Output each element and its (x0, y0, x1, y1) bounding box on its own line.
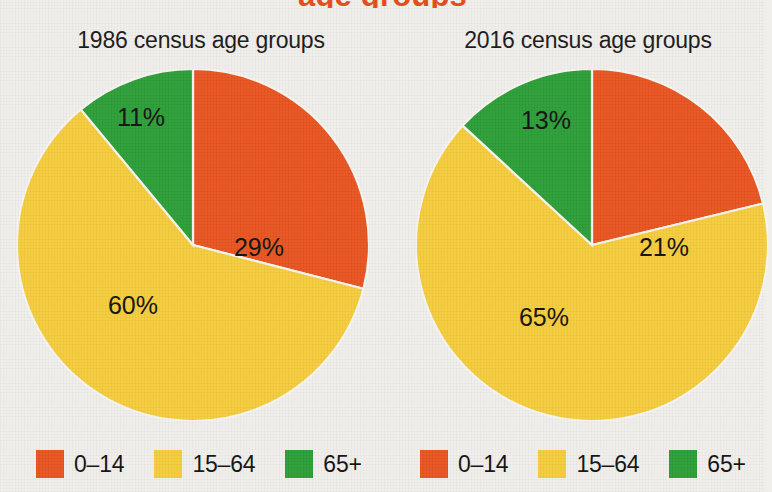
chart-title-1986: 1986 census age groups (0, 27, 392, 54)
pie-svg-2016: 21% 65% 13% (416, 69, 768, 421)
pie-chart-1986: 29% 60% 11% (17, 69, 369, 421)
legend-swatch-15-64-icon (154, 450, 182, 478)
legend-label-0-14: 0–14 (74, 451, 124, 478)
legend-item-15-64-2016[interactable]: 15–64 (538, 450, 639, 478)
pie-label-65-plus-2016: 13% (521, 106, 571, 134)
legend-label-65-plus: 65+ (323, 451, 361, 478)
legend-item-65-plus-1986[interactable]: 65+ (285, 450, 361, 478)
legend-label-15-64: 15–64 (576, 451, 639, 478)
chart-panel-1986: 1986 census age groups 29% 60% 11% 0–14 … (0, 0, 382, 492)
legend-swatch-0-14-icon (36, 450, 64, 478)
chart-panel-2016: 2016 census age groups 21% 65% 13% 0–14 … (383, 0, 765, 492)
legend-label-65-plus: 65+ (707, 451, 745, 478)
pie-svg-1986: 29% 60% 11% (17, 69, 369, 421)
pie-slices-2016 (416, 69, 768, 421)
legend-swatch-15-64-icon (538, 450, 566, 478)
pie-label-0-14-1986: 29% (234, 233, 284, 261)
pie-label-15-64-2016: 65% (519, 303, 569, 331)
pie-label-15-64-1986: 60% (108, 291, 158, 319)
legend-item-0-14-1986[interactable]: 0–14 (36, 450, 124, 478)
chart-title-2016: 2016 census age groups (383, 27, 772, 54)
legend-item-0-14-2016[interactable]: 0–14 (420, 450, 508, 478)
pie-label-0-14-2016: 21% (639, 233, 689, 261)
legend-label-0-14: 0–14 (458, 451, 508, 478)
pie-slices-1986 (17, 69, 369, 421)
legend-1986: 0–14 15–64 65+ (36, 447, 362, 481)
pie-chart-2016: 21% 65% 13% (416, 69, 768, 421)
page-title-partial: age groups (0, 0, 765, 8)
legend-swatch-0-14-icon (420, 450, 448, 478)
legend-2016: 0–14 15–64 65+ (420, 447, 746, 481)
legend-item-65-plus-2016[interactable]: 65+ (669, 450, 745, 478)
pie-label-65-plus-1986: 11% (117, 103, 165, 131)
legend-swatch-65-plus-icon (285, 450, 313, 478)
legend-label-15-64: 15–64 (192, 451, 255, 478)
legend-swatch-65-plus-icon (669, 450, 697, 478)
legend-item-15-64-1986[interactable]: 15–64 (154, 450, 255, 478)
